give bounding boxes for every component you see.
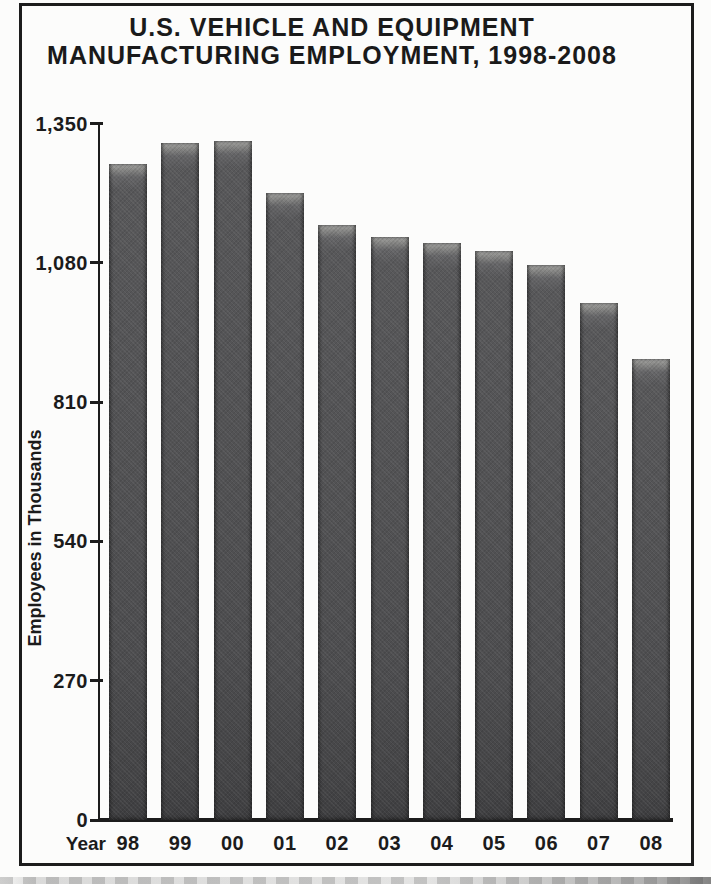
y-tick-mark (90, 819, 103, 822)
x-tick-label-06: 06 (520, 832, 572, 855)
chart-title-line2: MANUFACTURING EMPLOYMENT, 1998-2008 (22, 41, 642, 69)
y-tick-mark (90, 122, 103, 125)
scan-artifact-strip (0, 877, 711, 884)
y-tick-mark (90, 540, 103, 543)
x-tick-label-03: 03 (364, 832, 416, 855)
x-tick-label-04: 04 (416, 832, 468, 855)
x-tick-label-02: 02 (311, 832, 363, 855)
bar-05 (475, 251, 513, 820)
bar-98 (109, 164, 147, 820)
x-tick-label-05: 05 (468, 832, 520, 855)
bar-99 (161, 143, 199, 820)
x-tick-label-07: 07 (573, 832, 625, 855)
y-tick-label: 0 (0, 809, 88, 831)
y-tick-label: 270 (0, 670, 88, 692)
bar-00 (214, 141, 252, 820)
x-tick-label-99: 99 (154, 832, 206, 855)
y-tick-mark (90, 679, 103, 682)
y-tick-label: 810 (0, 391, 88, 413)
x-axis-title: Year (30, 833, 106, 855)
y-tick-label: 540 (0, 530, 88, 552)
y-tick-mark (90, 261, 103, 264)
y-tick-label: 1,350 (0, 113, 88, 135)
y-tick-label: 1,080 (0, 252, 88, 274)
bar-03 (371, 237, 409, 820)
chart-title-line1: U.S. VEHICLE AND EQUIPMENT (22, 13, 642, 41)
chart-title: U.S. VEHICLE AND EQUIPMENT MANUFACTURING… (22, 13, 642, 69)
bar-01 (266, 193, 304, 820)
bar-04 (423, 243, 461, 820)
y-axis-line (98, 122, 100, 820)
scanned-chart-page: U.S. VEHICLE AND EQUIPMENT MANUFACTURING… (0, 0, 711, 884)
x-tick-label-01: 01 (259, 832, 311, 855)
bar-07 (580, 303, 618, 820)
bar-08 (632, 359, 670, 820)
y-tick-mark (90, 401, 103, 404)
x-tick-label-08: 08 (625, 832, 677, 855)
x-tick-label-98: 98 (102, 832, 154, 855)
x-tick-label-00: 00 (207, 832, 259, 855)
bar-06 (527, 265, 565, 820)
bar-02 (318, 225, 356, 820)
